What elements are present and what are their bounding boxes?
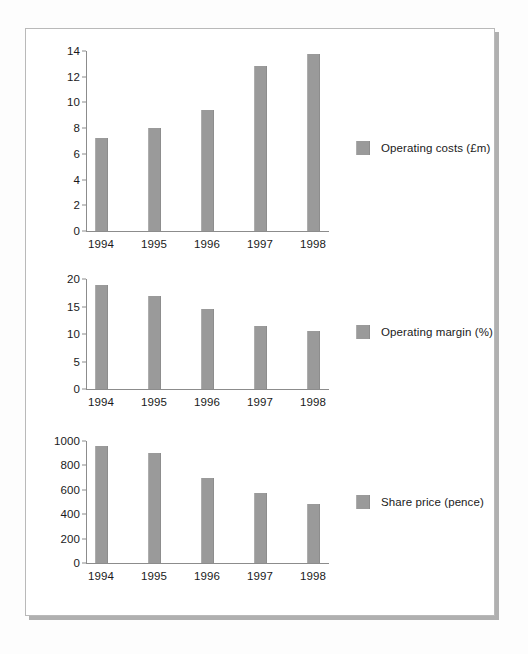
x-axis-tick-label: 1998 — [287, 570, 339, 582]
y-axis-tick-label: 14 — [67, 45, 80, 57]
y-axis-tick-mark — [82, 489, 86, 490]
legend-label: Operating costs (£m) — [381, 142, 490, 154]
bar — [307, 331, 320, 389]
y-axis-tick-label: 400 — [61, 508, 81, 520]
page-canvas: 0246810121419941995199619971998Operating… — [0, 0, 528, 654]
y-axis-tick-mark — [82, 306, 86, 307]
bar — [201, 309, 214, 389]
y-axis-tick-label: 0 — [74, 557, 81, 569]
bar — [95, 446, 108, 563]
x-axis-tick-label: 1995 — [128, 238, 180, 250]
y-axis-tick-mark — [82, 179, 86, 180]
y-axis-tick-mark — [82, 153, 86, 154]
chart-legend: Share price (pence) — [356, 495, 484, 509]
y-axis-tick-label: 10 — [67, 96, 80, 108]
legend-color-swatch — [356, 325, 370, 339]
plot-area: 0510152019941995199619971998 — [44, 267, 334, 419]
y-axis-tick-label: 10 — [67, 328, 80, 340]
bar — [95, 138, 108, 231]
x-axis-tick-label: 1997 — [234, 238, 286, 250]
x-axis-tick-label: 1994 — [75, 570, 127, 582]
y-axis-tick-mark — [82, 334, 86, 335]
y-axis-tick-mark — [82, 563, 86, 564]
x-axis-tick-label: 1998 — [287, 396, 339, 408]
y-axis-tick-mark — [82, 76, 86, 77]
bar — [148, 128, 161, 231]
bar — [254, 493, 267, 563]
x-axis-line — [86, 563, 329, 564]
y-axis-tick-label: 4 — [74, 174, 81, 186]
bar — [148, 453, 161, 563]
y-axis-tick-mark — [82, 389, 86, 390]
bar — [95, 285, 108, 390]
chart-legend: Operating costs (£m) — [356, 141, 490, 155]
y-axis-tick-mark — [82, 538, 86, 539]
y-axis-tick-label: 200 — [61, 533, 81, 545]
chart-operating-margin: 0510152019941995199619971998Operating ma… — [26, 267, 496, 419]
legend-color-swatch — [356, 141, 370, 155]
x-axis-tick-label: 1994 — [75, 396, 127, 408]
legend-label: Operating margin (%) — [381, 326, 493, 338]
plot-area: 0200400600800100019941995199619971998 — [44, 429, 334, 601]
x-axis-tick-label: 1994 — [75, 238, 127, 250]
y-axis-tick-label: 20 — [67, 273, 80, 285]
bar — [254, 66, 267, 231]
chart-legend: Operating margin (%) — [356, 325, 493, 339]
y-axis-tick-label: 2 — [74, 199, 81, 211]
y-axis-tick-mark — [82, 279, 86, 280]
y-axis-tick-label: 8 — [74, 122, 81, 134]
x-axis-tick-label: 1995 — [128, 396, 180, 408]
chart-sheet: 0246810121419941995199619971998Operating… — [25, 28, 495, 616]
x-axis-tick-label: 1996 — [181, 570, 233, 582]
bar — [254, 326, 267, 389]
chart-share-price: 0200400600800100019941995199619971998Sha… — [26, 429, 496, 601]
y-axis-line — [86, 51, 87, 231]
y-axis-tick-label: 0 — [74, 225, 81, 237]
bar — [307, 54, 320, 231]
y-axis-tick-mark — [82, 128, 86, 129]
bar — [148, 296, 161, 390]
y-axis-tick-mark — [82, 102, 86, 103]
x-axis-tick-label: 1996 — [181, 238, 233, 250]
x-axis-line — [86, 389, 329, 390]
x-axis-tick-label: 1997 — [234, 396, 286, 408]
y-axis-tick-labels: 02468101214 — [44, 37, 86, 259]
y-axis-tick-label: 12 — [67, 71, 80, 83]
y-axis-tick-mark — [82, 51, 86, 52]
y-axis-tick-label: 800 — [61, 459, 81, 471]
y-axis-tick-mark — [82, 231, 86, 232]
y-axis-tick-mark — [82, 465, 86, 466]
y-axis-tick-label: 5 — [74, 356, 81, 368]
y-axis-tick-mark — [82, 205, 86, 206]
x-axis-tick-label: 1997 — [234, 570, 286, 582]
x-axis-tick-label: 1996 — [181, 396, 233, 408]
bar — [201, 478, 214, 563]
y-axis-tick-mark — [82, 514, 86, 515]
y-axis-tick-mark — [82, 361, 86, 362]
y-axis-line — [86, 441, 87, 563]
legend-color-swatch — [356, 495, 370, 509]
plot-area: 0246810121419941995199619971998 — [44, 37, 334, 259]
y-axis-tick-mark — [82, 441, 86, 442]
y-axis-line — [86, 279, 87, 389]
y-axis-tick-label: 15 — [67, 301, 80, 313]
x-axis-line — [86, 231, 329, 232]
x-axis-tick-label: 1995 — [128, 570, 180, 582]
legend-label: Share price (pence) — [381, 496, 484, 508]
bar — [201, 110, 214, 231]
x-axis-tick-label: 1998 — [287, 238, 339, 250]
chart-operating-costs: 0246810121419941995199619971998Operating… — [26, 37, 496, 259]
y-axis-tick-label: 6 — [74, 148, 81, 160]
y-axis-tick-label: 0 — [74, 383, 81, 395]
bar — [307, 504, 320, 563]
y-axis-tick-label: 1000 — [54, 435, 80, 447]
y-axis-tick-label: 600 — [61, 484, 81, 496]
